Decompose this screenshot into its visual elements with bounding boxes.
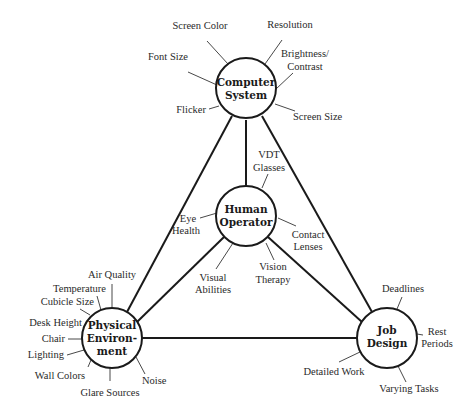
hub-label-line-1: Human <box>224 203 267 215</box>
factor-eye-health-line-2: Health <box>172 225 201 236</box>
factor-vision-therapy-line-1: Vision <box>259 261 287 272</box>
factor-varying-tasks: Varying Tasks <box>379 383 438 394</box>
hub-circle <box>216 58 276 118</box>
factor-vdt-line-2: Glasses <box>253 162 285 173</box>
hub-label-line-2: Design <box>367 337 408 349</box>
hub-label-line-2: Operator <box>220 216 273 228</box>
factor-resolution: Resolution <box>267 19 313 30</box>
factor-chair: Chair <box>42 333 66 344</box>
factor-brightness-line-1: Brightness/ <box>281 48 329 59</box>
factor-glare-sources: Glare Sources <box>80 387 139 398</box>
factor-temperature: Temperature <box>53 283 106 294</box>
factor-rest-periods-line-1: Rest <box>428 326 447 337</box>
factor-lighting: Lighting <box>28 349 65 360</box>
factor-screen-size: Screen Size <box>293 111 343 122</box>
hub-label-line-2: Environ- <box>87 332 137 344</box>
hub-physical-environment: Physical Environ- ment <box>82 308 142 368</box>
factor-cubicle-size: Cubicle Size <box>41 296 95 307</box>
factor-brightness-line-2: Contrast <box>287 61 323 72</box>
hub-human-operator: Human Operator <box>216 186 276 246</box>
factor-deadlines: Deadlines <box>382 283 424 294</box>
hub-label-line-1: Physical <box>88 319 137 331</box>
factor-visual-abilities-line-1: Visual <box>200 272 227 283</box>
factor-flicker: Flicker <box>176 104 206 115</box>
factor-eye-health-line-1: Eye <box>180 213 197 224</box>
factor-screen-color: Screen Color <box>172 20 228 31</box>
hub-computer-system: Computer System <box>216 58 276 118</box>
factor-detailed-work: Detailed Work <box>303 366 365 377</box>
factor-vision-therapy-line-2: Therapy <box>256 274 292 285</box>
hub-label-line-1: Job <box>376 324 396 336</box>
hub-job-design: Job Design <box>357 308 417 368</box>
factor-noise: Noise <box>142 375 167 386</box>
hub-label-line-3: ment <box>97 345 127 357</box>
factor-air-quality: Air Quality <box>88 269 137 280</box>
factor-font-size: Font Size <box>148 51 188 62</box>
factor-visual-abilities-line-2: Abilities <box>195 284 231 295</box>
factor-rest-periods-line-2: Periods <box>421 338 453 349</box>
ergonomics-diagram: Computer System Human Operator Physical … <box>0 0 475 415</box>
factor-vdt-line-1: VDT <box>258 149 280 160</box>
hub-label-line-1: Computer <box>217 76 276 88</box>
factor-contact-lenses-line-2: Lenses <box>293 241 322 252</box>
factor-desk-height: Desk Height <box>29 317 82 328</box>
factor-contact-lenses-line-1: Contact <box>292 229 325 240</box>
factor-wall-colors: Wall Colors <box>35 370 85 381</box>
hub-label-line-2: System <box>225 89 267 101</box>
